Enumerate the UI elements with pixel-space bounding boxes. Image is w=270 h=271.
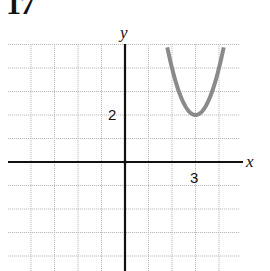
y-tick-label-2: 2 [108,106,116,123]
x-axis-label: x [245,152,254,171]
coordinate-plane: x y 3 2 [0,0,270,271]
axes [8,44,243,271]
x-tick-label-3: 3 [190,169,198,186]
origin-dot [123,160,127,164]
y-axis-label: y [118,23,128,42]
